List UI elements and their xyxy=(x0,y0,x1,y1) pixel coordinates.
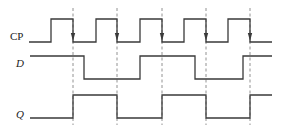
waveforms xyxy=(29,19,272,118)
signal-label-cp: CP xyxy=(10,30,23,42)
timing-diagram: CP D Q xyxy=(0,0,285,134)
falling-edge-arrow-icon xyxy=(71,33,75,41)
signal-label-d: D xyxy=(15,57,24,69)
falling-edge-arrow-icon xyxy=(160,33,164,41)
waveform-q xyxy=(30,95,272,118)
waveform-d xyxy=(30,56,272,79)
falling-edge-arrow-icon xyxy=(115,33,119,41)
signal-label-q: Q xyxy=(16,108,24,120)
falling-edge-arrow-icon xyxy=(204,33,208,41)
falling-edge-arrow-icon xyxy=(248,33,252,41)
signal-labels: CP D Q xyxy=(10,30,24,120)
waveform-cp xyxy=(29,19,272,42)
